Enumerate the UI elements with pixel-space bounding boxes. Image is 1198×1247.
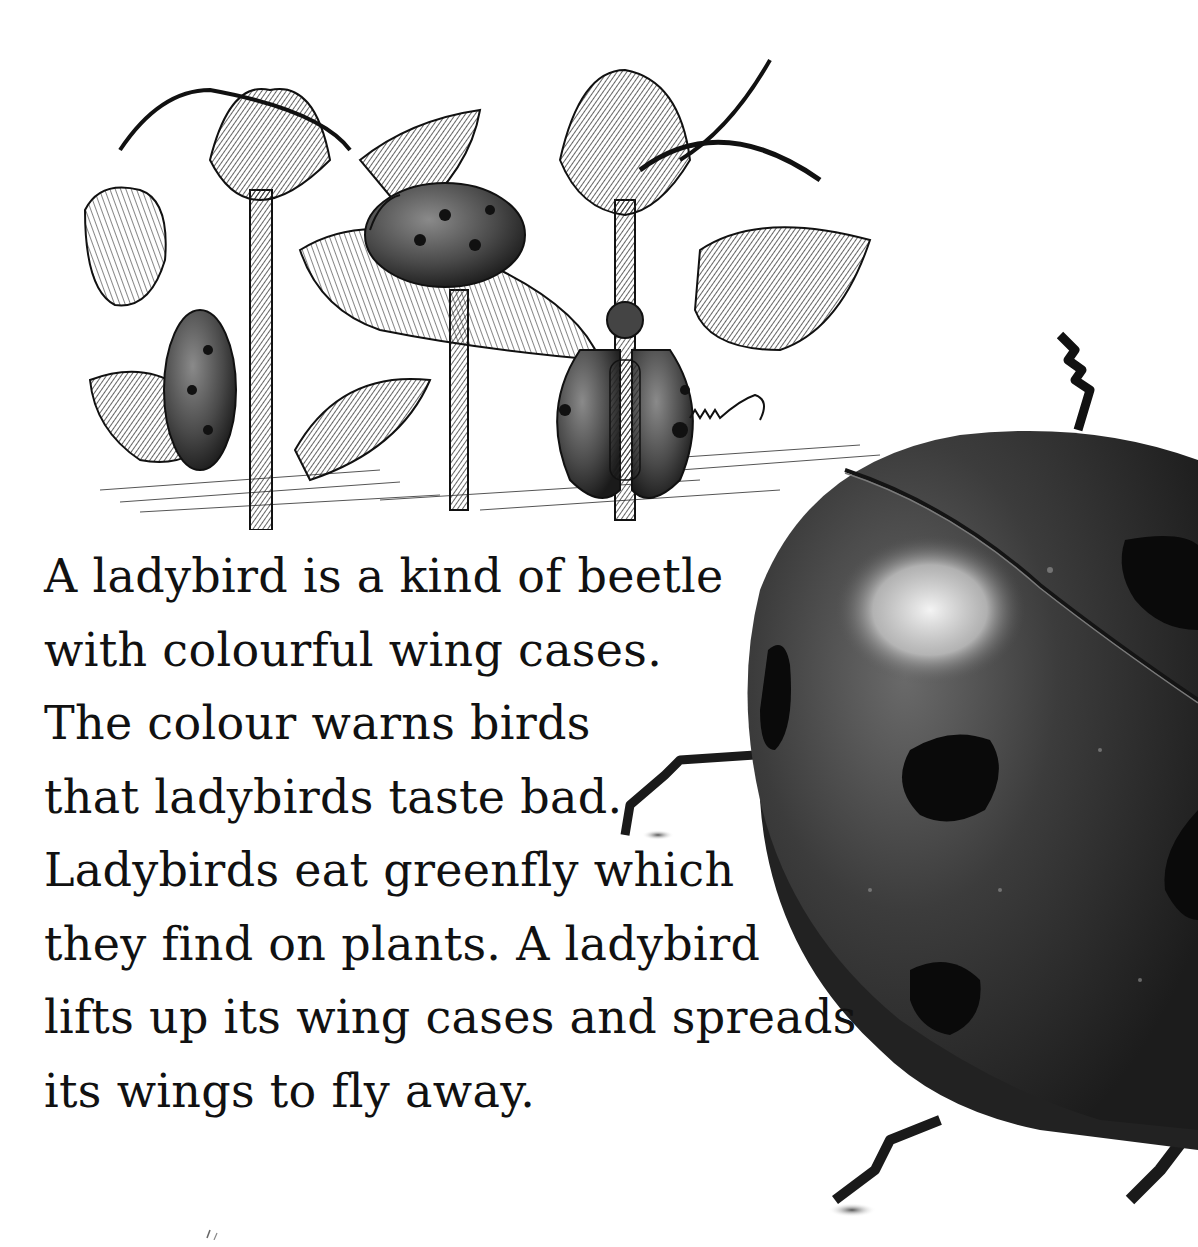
passage-line: they find on plants. A ladybird: [44, 908, 844, 982]
passage-line: Ladybirds eat greenfly which: [44, 834, 844, 908]
leg-bottom: [835, 1120, 940, 1200]
antenna: [1060, 335, 1090, 430]
passage-line: with colourful wing cases.: [44, 614, 844, 688]
passage-line: lifts up its wing cases and spreads: [44, 981, 844, 1055]
print-smudge: [203, 1228, 225, 1240]
illustrated-ladybird-on-leaf: [365, 183, 525, 287]
shell-highlight: [835, 535, 1025, 685]
body-passage: A ladybird is a kind of beetle with colo…: [44, 540, 844, 1128]
passage-line: The colour warns birds: [44, 687, 844, 761]
passage-line: that ladybirds taste bad.: [44, 761, 844, 835]
passage-line: A ladybird is a kind of beetle: [44, 540, 844, 614]
illustrated-ladybird-climbing: [164, 310, 236, 470]
passage-line: its wings to fly away.: [44, 1055, 844, 1129]
